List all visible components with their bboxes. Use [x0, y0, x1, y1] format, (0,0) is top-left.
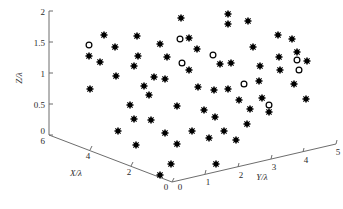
data-point-filled [193, 45, 201, 53]
scatter-plot-3d: 2 1.5 1 0.5 0 6 4 2 0 0 1 2 3 4 5 Z/λ X/… [0, 0, 343, 209]
data-point-filled [274, 31, 282, 39]
data-point-filled [111, 43, 119, 51]
data-point-open [179, 60, 185, 66]
data-point-open [266, 102, 272, 108]
data-point-filled [156, 171, 164, 179]
data-point-filled [232, 136, 240, 144]
data-point-filled [200, 106, 208, 114]
data-point-filled [227, 59, 235, 67]
data-point-filled [212, 160, 220, 168]
y-tick-label: 5 [336, 147, 341, 157]
data-point-filled [210, 86, 218, 94]
data-point-open [296, 67, 302, 73]
data-point-filled [224, 85, 232, 93]
data-point-filled [258, 94, 266, 102]
data-point-filled [134, 52, 142, 60]
data-point-filled [256, 62, 264, 70]
data-point-open [86, 42, 92, 48]
data-point-filled [173, 140, 181, 148]
data-point-filled [85, 52, 93, 60]
data-point-filled [224, 20, 232, 28]
x-axis-tick-labels: 6 4 2 0 [41, 136, 169, 192]
data-point-filled [275, 53, 283, 61]
z-axis-title: Z/λ [14, 72, 24, 84]
data-point-open [241, 81, 247, 87]
data-point-filled [224, 10, 232, 18]
data-point-filled [255, 77, 263, 85]
y-tick-label: 2 [239, 170, 244, 180]
data-point-filled [243, 120, 251, 128]
data-point-filled [156, 40, 164, 48]
data-point-open [210, 52, 216, 58]
data-point-filled [133, 32, 141, 40]
data-point-filled [220, 127, 228, 135]
data-point-filled [161, 129, 169, 137]
data-point-filled [302, 95, 310, 103]
x-axis-title: X/λ [69, 168, 82, 178]
data-point-filled [249, 43, 257, 51]
x-tick-label: 4 [86, 151, 91, 161]
data-point-filled [205, 134, 213, 142]
data-point-filled [288, 35, 296, 43]
y-tick-label: 4 [304, 155, 309, 165]
data-point-filled [188, 127, 196, 135]
data-point-filled [114, 127, 122, 135]
data-point-filled [161, 75, 169, 83]
y-tick-label: 0 [178, 182, 183, 192]
z-axis-ticks [49, 11, 53, 135]
data-point-filled [211, 113, 219, 121]
z-tick-label: 0 [41, 126, 46, 136]
data-point-filled [145, 91, 153, 99]
data-point-open [177, 36, 183, 42]
data-point-filled [290, 80, 298, 88]
data-point-filled [293, 48, 301, 56]
y-tick-label: 1 [206, 177, 211, 187]
plot-canvas: 2 1.5 1 0.5 0 6 4 2 0 0 1 2 3 4 5 Z/λ X/… [0, 0, 343, 209]
data-point-filled [185, 66, 193, 74]
data-point-filled [235, 96, 243, 104]
z-tick-label: 1.5 [34, 38, 46, 48]
data-point-filled [167, 160, 175, 168]
y-axis-title: Y/λ [256, 172, 268, 182]
data-point-filled [140, 82, 148, 90]
data-point-filled [246, 105, 254, 113]
x-tick-label: 2 [127, 167, 132, 177]
data-point-filled [265, 108, 273, 116]
data-point-filled [100, 31, 108, 39]
data-point-filled [126, 101, 134, 109]
data-point-filled [86, 85, 94, 93]
data-point-filled [96, 58, 104, 66]
data-point-filled [173, 102, 181, 110]
x-axis-line [49, 135, 172, 182]
y-axis-line [172, 144, 336, 182]
data-points-filled [85, 10, 311, 179]
z-axis-tick-labels: 2 1.5 1 0.5 0 [34, 7, 46, 136]
data-point-filled [150, 73, 158, 81]
data-point-filled [163, 53, 171, 61]
z-tick-label: 2 [41, 7, 46, 17]
data-point-filled [276, 66, 284, 74]
data-point-filled [194, 83, 202, 91]
data-point-filled [177, 14, 185, 22]
data-point-filled [147, 116, 155, 124]
data-point-filled [130, 62, 138, 70]
data-point-filled [130, 115, 138, 123]
data-point-filled [185, 34, 193, 42]
data-point-open [294, 57, 300, 63]
y-tick-label: 3 [272, 162, 277, 172]
x-tick-label: 6 [41, 136, 46, 146]
z-tick-label: 0.5 [34, 100, 46, 110]
x-tick-label: 0 [164, 182, 169, 192]
data-point-filled [303, 57, 311, 65]
data-point-filled [216, 60, 224, 68]
data-point-filled [244, 17, 252, 25]
data-point-filled [132, 141, 140, 149]
z-tick-label: 1 [41, 69, 46, 79]
y-axis-tick-labels: 0 1 2 3 4 5 [178, 147, 341, 192]
data-point-filled [112, 72, 120, 80]
